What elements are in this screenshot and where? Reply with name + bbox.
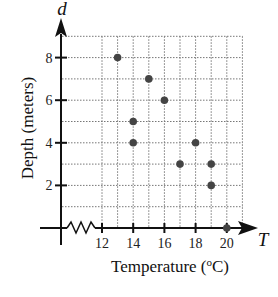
x-title-unit: C) <box>212 257 229 276</box>
axis-break-zigzag-icon <box>67 222 95 233</box>
x-title-main: Temperature ( <box>111 257 207 276</box>
x-tick-label: 20 <box>220 236 234 251</box>
data-point <box>129 139 137 147</box>
ticks: 12141618202468 <box>46 51 234 251</box>
x-tick-label: 16 <box>157 236 171 251</box>
data-point <box>176 160 184 168</box>
grid <box>62 36 242 228</box>
y-tick-label: 2 <box>46 178 53 193</box>
data-point <box>192 139 200 147</box>
data-point <box>161 96 169 104</box>
data-point <box>207 160 215 168</box>
y-variable-label: d <box>57 0 67 19</box>
y-axis-title: Depth (meters) <box>18 77 37 179</box>
y-tick-label: 4 <box>46 136 53 151</box>
x-axis-title: Temperature (oC) <box>111 256 229 276</box>
y-tick-label: 8 <box>46 51 53 66</box>
data-point <box>114 54 122 62</box>
x-tick-label: 18 <box>189 236 203 251</box>
data-point <box>207 182 215 190</box>
data-point <box>223 224 231 232</box>
scatter-chart: 12141618202468 d T Depth (meters) Temper… <box>0 0 278 297</box>
x-tick-label: 14 <box>126 236 140 251</box>
x-tick-label: 12 <box>95 236 109 251</box>
y-tick-label: 6 <box>46 93 53 108</box>
data-point <box>129 118 137 126</box>
x-variable-label: T <box>258 229 270 250</box>
data-point <box>145 75 153 83</box>
